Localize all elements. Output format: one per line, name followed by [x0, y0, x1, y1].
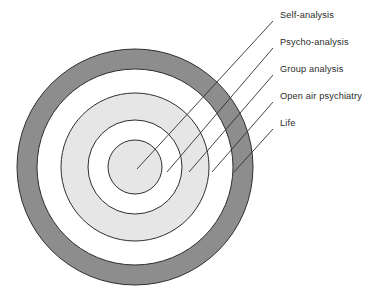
- rings-group: [17, 49, 253, 285]
- label-group-analysis: Group analysis: [280, 65, 343, 74]
- label-psycho-analysis: Psycho-analysis: [280, 38, 349, 47]
- concentric-circles-figure: Self-analysis Psycho-analysis Group anal…: [0, 0, 377, 300]
- label-open-air-psychiatry: Open air psychiatry: [280, 92, 362, 101]
- ring-self-analysis-core: [108, 140, 162, 194]
- label-self-analysis: Self-analysis: [280, 11, 334, 20]
- label-life: Life: [280, 119, 295, 128]
